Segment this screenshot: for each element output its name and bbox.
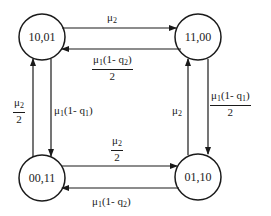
state-label-10-01: 10,01 (19, 30, 65, 44)
edge-label-mu2-top: μ2 (107, 11, 117, 27)
edge-label-mu2-over-2-left: μ2 2 (13, 96, 25, 126)
state-label-00-11: 00,11 (19, 171, 65, 185)
edge-label-mu1-1-q2-over-2-top: μ1(1- q2) 2 (92, 53, 133, 83)
edge-label-mu1-1-q1-over-2-right: μ1(1- q1) 2 (210, 89, 251, 119)
edge-label-mu1-1-q1-left: μ1(1- q1) (54, 104, 93, 120)
state-label-01-10: 01,10 (175, 170, 221, 184)
edge-label-mu1-1-q2-bottom: μ1(1- q2) (92, 195, 131, 211)
edge-label-mu2-right: μ2 (172, 104, 182, 120)
state-label-11-00: 11,00 (175, 30, 221, 44)
edge-label-mu2-over-2-bottom: μ2 2 (111, 134, 123, 164)
